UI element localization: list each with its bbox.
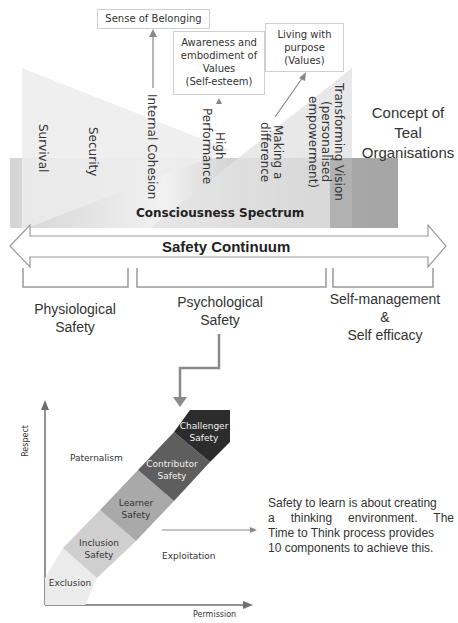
level-survival: Survival <box>36 124 49 172</box>
level-internal-cohesion: Internal Cohesion <box>145 94 158 199</box>
consciousness-spectrum-label: Consciousness Spectrum <box>136 206 304 220</box>
sense-of-belonging-box: Sense of Belonging <box>97 9 210 29</box>
stage-inclusion-safety: Inclusion Safety <box>74 537 124 561</box>
category-physiological-safety: Physiological Safety <box>20 300 130 336</box>
self-esteem-box: Awareness and embodiment of Values (Self… <box>173 31 265 95</box>
safety-to-learn-description: Safety to learn is about creating a thin… <box>268 496 454 556</box>
quadrant-exploitation: Exploitation <box>162 550 216 562</box>
level-transforming-vision: Transforming Vision (personalised empowe… <box>306 83 345 201</box>
stage-challenger-safety: Challenger Safety <box>176 420 232 444</box>
teal-organisations-label: Concept of Teal Organisations <box>358 103 458 163</box>
living-with-purpose-box: Living with purpose (Values) <box>265 23 344 72</box>
stage-contributor-safety: Contributor Safety <box>142 458 202 482</box>
stage-learner-safety: Learner Safety <box>111 497 161 521</box>
y-axis-label: Respect <box>20 425 32 457</box>
stage-exclusion: Exclusion <box>48 577 92 589</box>
x-axis-label: Permission <box>193 609 236 621</box>
level-security: Security <box>86 127 99 176</box>
quadrant-paternalism: Paternalism <box>70 452 123 464</box>
category-psychological-safety: Psychological Safety <box>160 293 280 329</box>
category-self-management: Self-management & Self efficacy <box>328 290 442 344</box>
level-high-performance: High Performance <box>200 108 226 184</box>
level-making-a-difference: Making a difference <box>258 122 284 182</box>
safety-continuum-label: Safety Continuum <box>162 238 290 255</box>
